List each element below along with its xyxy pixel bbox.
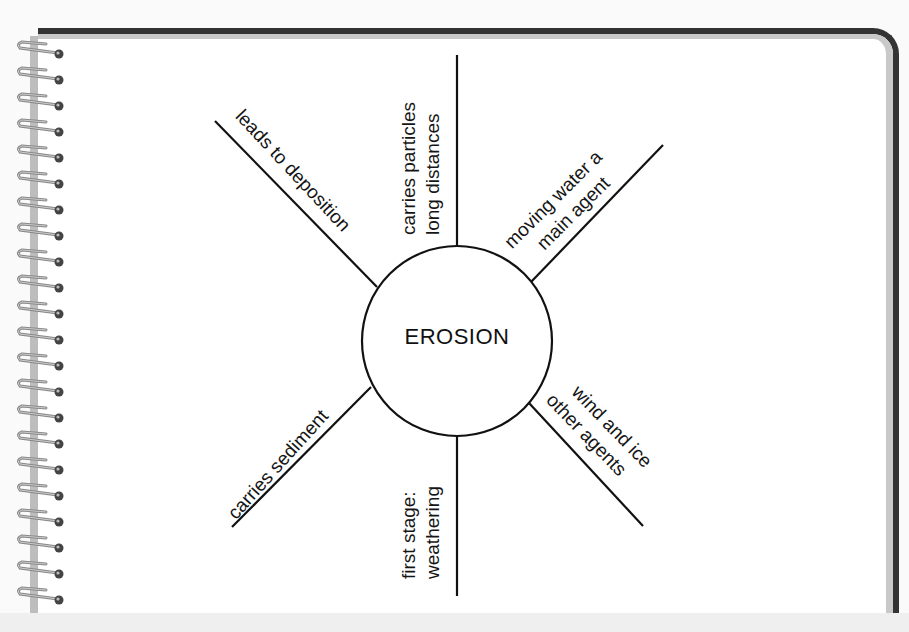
spoke-label-bottom-line-2: weathering	[421, 459, 445, 579]
spoke-label-top-line-1: carries particles	[397, 55, 421, 235]
concept-web-diagram	[0, 0, 909, 632]
center-concept-label: EROSION	[362, 324, 552, 350]
spoke-line-upper-left	[215, 121, 377, 287]
spoke-label-top: carries particles long distances	[397, 55, 445, 235]
spoke-label-bottom: first stage: weathering	[397, 459, 445, 579]
spoke-label-bottom-line-1: first stage:	[397, 459, 421, 579]
spoke-label-top-line-2: long distances	[421, 55, 445, 235]
